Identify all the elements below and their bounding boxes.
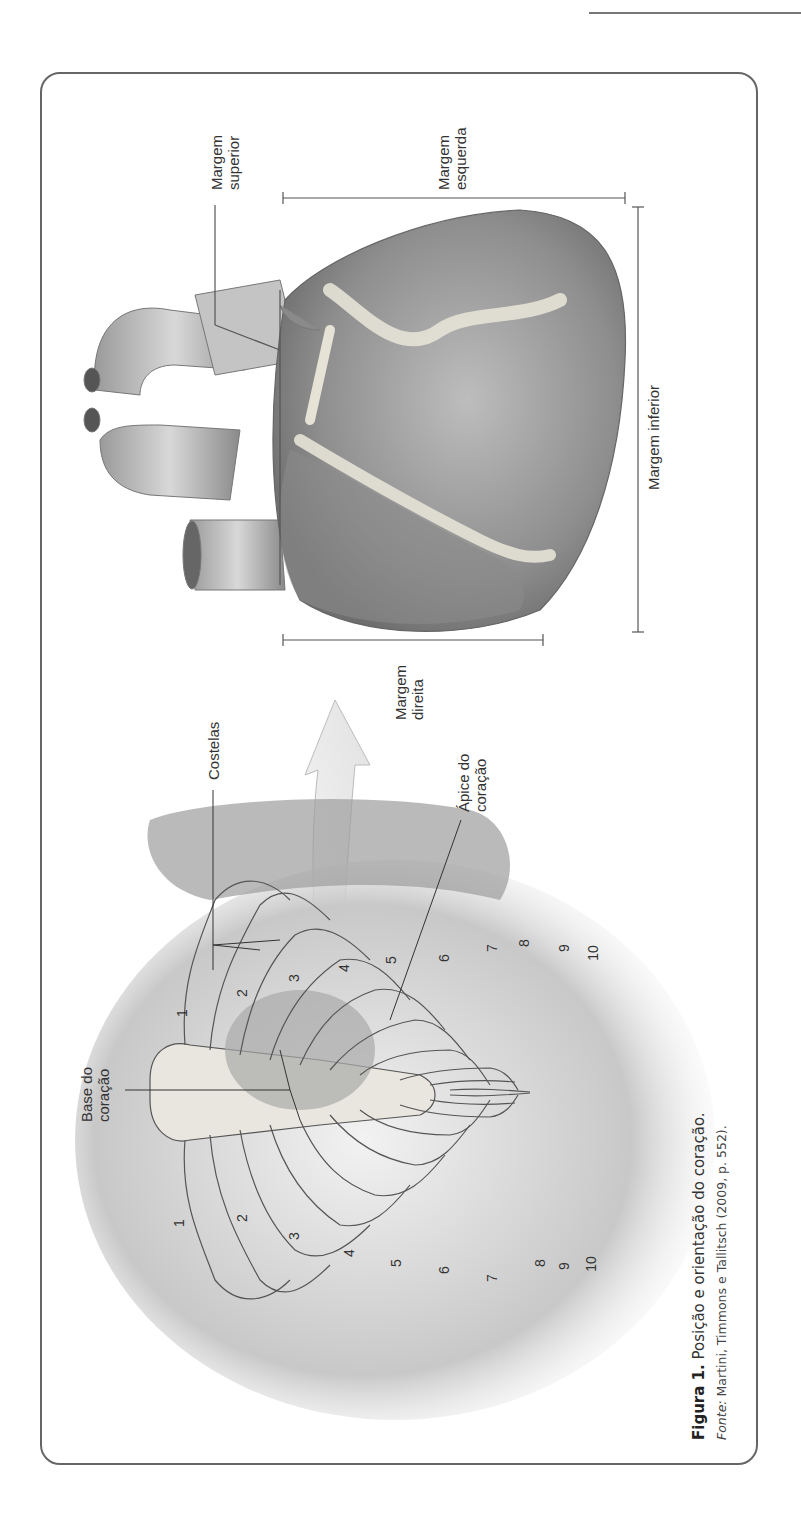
rib-number: 1 <box>171 1219 187 1227</box>
source-label: Fonte: <box>714 1400 729 1440</box>
caption-source: Fonte: Martini, Timmons e Tallitsch (200… <box>714 1112 729 1440</box>
label-margem-superior: Margem superior <box>208 135 242 190</box>
rib-number: 7 <box>484 944 500 952</box>
rib-number: 6 <box>436 1266 452 1274</box>
rib-number: 3 <box>286 974 302 982</box>
source-text: Martini, Timmons e Tallitsch (2009, p. 5… <box>714 1125 729 1396</box>
caption-title: Figura 1. Posição e orientação do coraçã… <box>690 1112 708 1440</box>
rib-number: 5 <box>383 956 399 964</box>
rib-number: 1 <box>174 1009 190 1017</box>
label-margem-inferior: Margem inferior <box>645 385 662 490</box>
label-margem-direita: Margem direita <box>392 665 426 720</box>
rib-number: 3 <box>286 1232 302 1240</box>
label-apice-do-coracao: Ápice do coração <box>455 754 489 812</box>
rib-number: 7 <box>484 1274 500 1282</box>
figure-caption: Figura 1. Posição e orientação do coraçã… <box>690 1112 729 1440</box>
rib-number: 9 <box>556 1262 572 1270</box>
rib-number: 6 <box>436 954 452 962</box>
rib-number: 8 <box>532 1259 548 1267</box>
rib-number: 9 <box>556 944 572 952</box>
rib-number: 2 <box>234 989 250 997</box>
figure-title: Posição e orientação do coração. <box>690 1112 708 1359</box>
rib-number: 10 <box>585 945 601 961</box>
rib-number: 4 <box>341 1249 357 1257</box>
rib-number: 2 <box>234 1214 250 1222</box>
rib-number: 8 <box>516 939 532 947</box>
thorax-illustration <box>75 790 715 1420</box>
label-costelas: Costelas <box>205 722 222 780</box>
label-margem-esquerda: Margem esquerda <box>435 127 469 190</box>
heart-illustration <box>84 210 626 631</box>
label-base-do-coracao: Base do coração <box>78 1067 112 1122</box>
rib-number: 10 <box>583 1256 599 1272</box>
figure-number: Figura 1. <box>690 1364 708 1440</box>
rib-number: 4 <box>336 964 352 972</box>
rib-number: 5 <box>388 1259 404 1267</box>
illustration <box>0 0 801 1523</box>
